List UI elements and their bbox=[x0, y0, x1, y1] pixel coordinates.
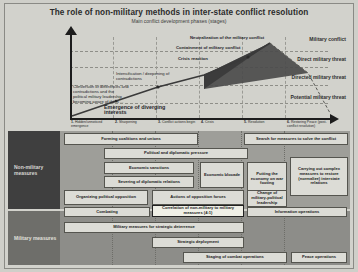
measure-severing-relations[interactable]: Severing of diplomatic relations bbox=[104, 176, 194, 188]
phase-4-label: Crisis bbox=[205, 120, 214, 124]
gridline-phase-5 bbox=[242, 37, 243, 118]
annotation-emergence: Emergence of diverging interests bbox=[104, 105, 174, 115]
phase-2: 2. Sharpening bbox=[114, 120, 156, 124]
measures-table: Non-military measures Military measures … bbox=[8, 131, 350, 265]
measure-strategic-deployment[interactable]: Strategic deployment bbox=[152, 237, 244, 248]
phase-4-num: 4. bbox=[201, 120, 204, 124]
annotation-containment: Containment of military conflict bbox=[176, 45, 240, 50]
measure-forming-coalitions[interactable]: Forming coalitions and unions bbox=[64, 133, 198, 145]
measure-economic-blocade[interactable]: Economic blocade bbox=[200, 162, 244, 188]
page-subtitle: Main conflict development phases (stages… bbox=[0, 18, 358, 24]
y-axis-arrow-icon bbox=[65, 26, 77, 35]
phase-3-label: Conflict actions begin bbox=[162, 120, 195, 124]
measure-economic-sanctions[interactable]: Economic sanctions bbox=[104, 162, 194, 174]
annotation-conversion: Conversion of differences and contradict… bbox=[73, 84, 129, 104]
phase-5: 5. Resolution bbox=[243, 120, 286, 124]
phase-2-label: Sharpening bbox=[119, 120, 137, 124]
measure-strategic-deterrence[interactable]: Military measures for strategic deterren… bbox=[64, 222, 244, 233]
annotation-intensification: Intensification / deepening of contradic… bbox=[116, 71, 178, 81]
page-title: The role of non-military methods in inte… bbox=[0, 8, 358, 17]
phase-5-num: 5. bbox=[244, 120, 247, 124]
band-label-military: Military measures bbox=[8, 211, 60, 265]
measure-leadership-change[interactable]: Change of military-political leadership bbox=[247, 190, 287, 207]
measure-combating[interactable]: Combating bbox=[64, 207, 150, 217]
phase-1-label: Hidden/unnoticed emergence bbox=[71, 120, 102, 128]
band-label-non-military: Non-military measures bbox=[8, 131, 60, 209]
measure-correlation-ratio[interactable]: Correlation of non-military to military … bbox=[152, 205, 244, 217]
measure-opposition-actions[interactable]: Actions of opposition forces bbox=[152, 190, 244, 205]
phase-1: 1. Hidden/unnoticed emergence bbox=[70, 120, 114, 128]
y-label-directed-threat: Directed military threat bbox=[286, 75, 346, 81]
y-label-military-conflict: Military conflict bbox=[286, 37, 346, 43]
measure-combat-operations[interactable]: Staging of combat operations bbox=[183, 252, 287, 263]
conflict-escalation-chart: Military conflict Direct military threat… bbox=[8, 27, 346, 130]
phase-2-num: 2. bbox=[115, 120, 118, 124]
slide-canvas: The role of non-military methods in inte… bbox=[0, 0, 358, 272]
y-label-potential-threat: Potential military threat bbox=[286, 95, 346, 101]
measure-information-operations[interactable]: Information operations bbox=[247, 207, 347, 217]
phase-4: 4. Crisis bbox=[200, 120, 243, 124]
phase-6: 6. Restoring Peace (post-conflict resolu… bbox=[286, 120, 332, 128]
measure-peace-operations[interactable]: Peace operations bbox=[291, 252, 347, 263]
annotation-crisis-reaction: Crisis reaction bbox=[178, 56, 208, 61]
y-label-direct-threat: Direct military threat bbox=[286, 57, 346, 63]
phase-6-label: Restoring Peace (post-conflict resolutio… bbox=[287, 120, 327, 128]
phase-3-num: 3. bbox=[158, 120, 161, 124]
measure-complex-measures[interactable]: Carrying out complex measures to restore… bbox=[290, 157, 348, 196]
phase-5-label: Resolution bbox=[248, 120, 265, 124]
annotation-neutralization: Neutralization of the military conflict bbox=[190, 35, 264, 40]
measure-political-pressure[interactable]: Political and diplomatic pressure bbox=[104, 148, 248, 159]
measure-search-measures[interactable]: Search for measures to solve the conflic… bbox=[244, 133, 348, 145]
y-axis bbox=[70, 33, 72, 119]
measure-organizing-opposition[interactable]: Organizing political opposition bbox=[64, 190, 148, 205]
phase-3: 3. Conflict actions begin bbox=[157, 120, 200, 124]
